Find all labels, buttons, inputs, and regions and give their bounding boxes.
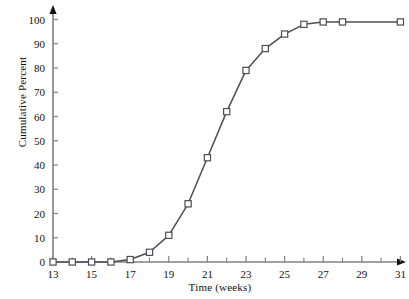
x-axis-tick-label: 29 — [356, 268, 368, 280]
data-series-line — [53, 22, 400, 262]
data-point-marker[interactable] — [339, 19, 345, 25]
y-axis-tick-label: 50 — [34, 135, 46, 147]
x-axis-tick-label: 23 — [241, 268, 253, 280]
y-axis-tick-label: 90 — [34, 38, 46, 50]
data-point-marker[interactable] — [69, 259, 75, 265]
data-point-marker[interactable] — [146, 249, 152, 255]
y-axis-tick-label: 100 — [29, 14, 46, 26]
y-axis-tick-label: 80 — [34, 62, 46, 74]
data-point-marker[interactable] — [108, 259, 114, 265]
data-point-marker[interactable] — [397, 19, 403, 25]
y-axis-tick-label: 60 — [34, 111, 46, 123]
x-axis-tick-label: 27 — [318, 268, 330, 280]
y-axis-title: Cumulative Percent — [16, 42, 28, 162]
data-point-marker[interactable] — [243, 67, 249, 73]
x-axis-title: Time (weeks) — [150, 281, 290, 293]
y-axis-tick-label: 0 — [40, 256, 46, 268]
data-point-marker[interactable] — [282, 31, 288, 37]
y-axis-arrow-icon — [49, 5, 56, 14]
data-point-marker[interactable] — [89, 259, 95, 265]
y-axis-tick-label: 20 — [34, 208, 46, 220]
x-axis-tick-label: 19 — [163, 268, 175, 280]
y-axis-tick-label: 30 — [34, 183, 46, 195]
x-axis-tick-label: 13 — [48, 268, 60, 280]
x-axis-tick-label: 21 — [202, 268, 213, 280]
data-point-marker[interactable] — [127, 256, 133, 262]
x-axis-tick-label: 17 — [125, 268, 137, 280]
data-point-marker[interactable] — [185, 201, 191, 207]
x-axis-tick-label: 31 — [395, 268, 406, 280]
data-point-marker[interactable] — [50, 259, 56, 265]
data-point-marker[interactable] — [204, 155, 210, 161]
data-point-marker[interactable] — [320, 19, 326, 25]
chart-figure: 0102030405060708090100131517192123252729… — [0, 0, 409, 299]
x-axis-tick-label: 15 — [86, 268, 98, 280]
y-axis-tick-label: 40 — [34, 159, 46, 171]
x-axis-arrow-icon — [397, 258, 406, 265]
data-point-marker[interactable] — [262, 46, 268, 52]
y-axis-tick-label: 10 — [34, 232, 46, 244]
ogive-line-chart: 0102030405060708090100131517192123252729… — [0, 0, 409, 299]
data-point-marker[interactable] — [224, 109, 230, 115]
data-point-marker[interactable] — [166, 232, 172, 238]
data-point-marker[interactable] — [301, 21, 307, 27]
y-axis-tick-label: 70 — [34, 86, 46, 98]
x-axis-tick-label: 25 — [279, 268, 291, 280]
